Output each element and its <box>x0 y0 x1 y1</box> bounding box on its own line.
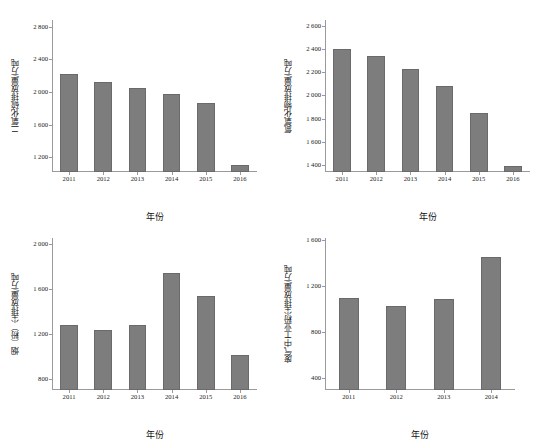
x-axis-line <box>52 171 257 172</box>
x-tick-label: 2015 <box>472 176 485 183</box>
x-tick-label: 2012 <box>97 176 110 183</box>
y-tick <box>49 157 52 158</box>
panel-indust-dust: 废气中工业粉尘排放量/万吨4008001 2001 60020112012201… <box>273 220 545 439</box>
y-tick-label: 2 400 <box>33 56 48 63</box>
x-tick-label: 2011 <box>336 176 349 183</box>
y-axis-line <box>52 238 53 390</box>
y-axis-line <box>325 20 326 172</box>
y-tick-label: 2 400 <box>306 46 321 53</box>
bar <box>339 298 359 390</box>
y-tick <box>322 286 325 287</box>
x-tick-label: 2014 <box>165 394 178 401</box>
y-tick-label: 2 000 <box>33 240 48 247</box>
y-tick-label: 2 200 <box>306 69 321 76</box>
bar <box>163 273 181 390</box>
bar <box>163 94 181 172</box>
bar <box>481 257 501 390</box>
bar <box>197 103 215 172</box>
x-tick-label: 2013 <box>131 176 144 183</box>
y-tick <box>322 72 325 73</box>
bar <box>402 69 420 172</box>
y-axis-title: 废气中工业粉尘排放量/万吨 <box>286 238 294 390</box>
y-tick <box>322 142 325 143</box>
x-tick-label: 2011 <box>63 394 76 401</box>
y-tick <box>322 165 325 166</box>
y-axis-title: 烟（粉）尘排放量/万吨 <box>13 238 21 390</box>
y-tick-label: 1 200 <box>306 283 321 290</box>
y-tick-label: 2 000 <box>306 92 321 99</box>
x-axis-line <box>52 389 257 390</box>
bar <box>60 74 78 172</box>
x-tick-label: 2015 <box>199 176 212 183</box>
panel-nox: 氮氧化物排放量/万吨1 4001 6001 8002 0002 2002 400… <box>273 0 545 220</box>
x-tick-label: 2013 <box>131 394 144 401</box>
x-tick-label: 2016 <box>233 176 246 183</box>
y-tick <box>322 119 325 120</box>
bar <box>231 165 249 172</box>
bar <box>94 330 112 390</box>
bar <box>386 306 406 390</box>
x-tick-label: 2011 <box>342 394 355 401</box>
y-tick-label: 2 600 <box>306 23 321 30</box>
bar <box>129 88 147 172</box>
x-axis-line <box>325 171 530 172</box>
y-tick <box>322 378 325 379</box>
y-tick-label: 1 200 <box>33 154 48 161</box>
y-tick-label: 1 600 <box>306 237 321 244</box>
y-tick-label: 2 800 <box>33 23 48 30</box>
y-axis-title: 二氧化硫排放量/万吨 <box>13 20 21 172</box>
x-tick-label: 2016 <box>233 394 246 401</box>
y-tick-label: 1 600 <box>33 121 48 128</box>
x-tick-label: 2014 <box>485 394 498 401</box>
y-axis-line <box>52 20 53 172</box>
figure-multi-panel-bar-charts: 二氧化硫排放量/万吨1 2001 6002 0002 4002 80020112… <box>0 0 545 439</box>
plot-area: 1 2001 6002 0002 4002 800201120122013201… <box>52 20 257 172</box>
y-tick-label: 1 400 <box>306 162 321 169</box>
y-tick <box>322 95 325 96</box>
x-tick-label: 2015 <box>199 394 212 401</box>
x-tick-label: 2016 <box>506 176 519 183</box>
x-tick-label: 2014 <box>165 176 178 183</box>
x-tick-label: 2011 <box>63 176 76 183</box>
y-tick <box>322 240 325 241</box>
y-tick-label: 800 <box>311 329 321 336</box>
bar <box>231 355 249 390</box>
y-tick <box>49 59 52 60</box>
y-tick-label: 1 600 <box>306 139 321 146</box>
y-tick <box>49 244 52 245</box>
y-tick <box>49 92 52 93</box>
y-tick-label: 400 <box>311 375 321 382</box>
bar <box>367 56 385 172</box>
y-tick <box>322 26 325 27</box>
y-tick <box>322 49 325 50</box>
panel-soot: 烟（粉）尘排放量/万吨8001 2001 6002 00020112012201… <box>0 220 273 439</box>
y-tick-label: 1 800 <box>306 115 321 122</box>
y-tick <box>49 289 52 290</box>
x-axis-title: 年份 <box>52 428 257 439</box>
bar <box>333 49 351 172</box>
bar <box>129 325 147 390</box>
plot-area: 4008001 2001 6002011201220132014 <box>325 238 515 390</box>
x-tick-label: 2012 <box>97 394 110 401</box>
x-tick-label: 2012 <box>370 176 383 183</box>
plot-area: 1 4001 6001 8002 0002 2002 4002 60020112… <box>325 20 530 172</box>
x-tick-label: 2014 <box>438 176 451 183</box>
y-tick-label: 1 600 <box>33 285 48 292</box>
x-tick-label: 2013 <box>437 394 450 401</box>
y-axis-line <box>325 238 326 390</box>
bar <box>470 113 488 172</box>
y-tick-label: 1 200 <box>33 330 48 337</box>
bar <box>434 299 454 390</box>
y-tick <box>49 379 52 380</box>
bar <box>197 296 215 390</box>
panel-so2: 二氧化硫排放量/万吨1 2001 6002 0002 4002 80020112… <box>0 0 273 220</box>
y-tick-label: 2 000 <box>33 89 48 96</box>
x-axis-title: 年份 <box>325 428 515 439</box>
bar <box>60 325 78 390</box>
y-tick <box>49 125 52 126</box>
x-tick-label: 2012 <box>390 394 403 401</box>
y-axis-title: 氮氧化物排放量/万吨 <box>286 20 294 172</box>
y-tick <box>49 27 52 28</box>
y-tick <box>49 334 52 335</box>
y-tick <box>322 332 325 333</box>
